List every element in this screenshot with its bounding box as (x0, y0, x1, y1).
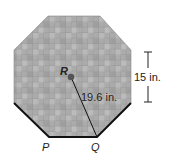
octagon-diagram: R 19.6 in. P Q 15 in. (0, 0, 169, 162)
label-side: 15 in. (134, 71, 161, 83)
label-radius: 19.6 in. (81, 91, 117, 103)
label-P: P (42, 141, 50, 153)
center-point-R (68, 74, 75, 81)
label-Q: Q (91, 141, 100, 153)
label-R: R (60, 65, 68, 77)
